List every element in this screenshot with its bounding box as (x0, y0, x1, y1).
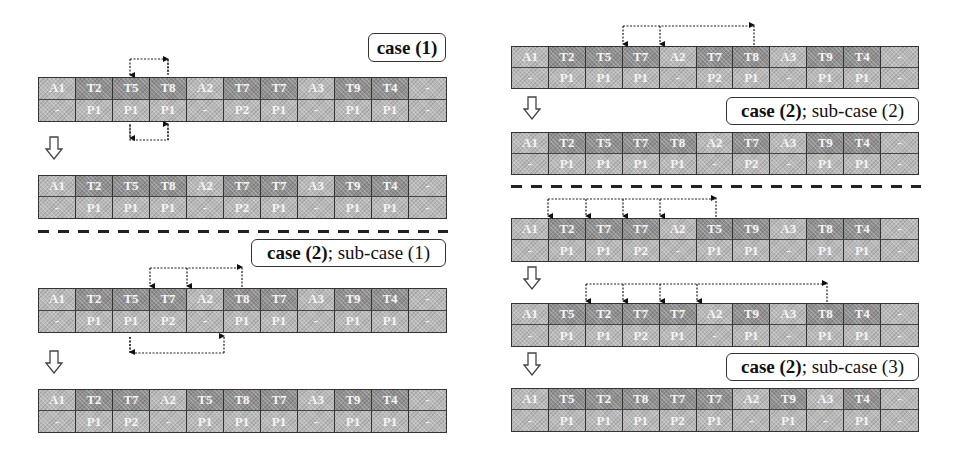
move-connectors (0, 0, 957, 456)
